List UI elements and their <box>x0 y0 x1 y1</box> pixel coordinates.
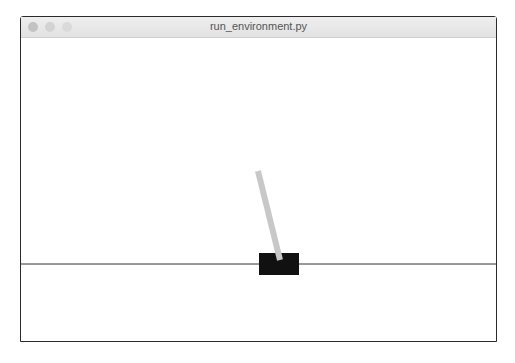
pole <box>258 171 280 260</box>
title-bar[interactable]: run_environment.py <box>21 17 496 38</box>
app-window: run_environment.py <box>20 16 497 342</box>
cartpole-canvas <box>21 38 496 341</box>
window-title: run_environment.py <box>21 20 496 32</box>
